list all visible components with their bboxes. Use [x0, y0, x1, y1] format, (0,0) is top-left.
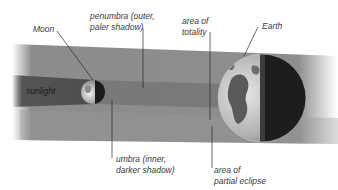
umbra-label-2: darker shadow): [116, 165, 175, 175]
earth-leader: [244, 27, 258, 56]
partial-label-2: partial eclipse: [214, 176, 266, 186]
penumbra-label-2: paler shadow): [90, 22, 143, 32]
moon-label: Moon: [33, 24, 54, 34]
penumbra-label-1: penumbra (outer,: [90, 11, 155, 21]
totality-label-1: area of: [182, 16, 208, 26]
totality-label-2: totality: [182, 27, 207, 37]
earth-label: Earth: [262, 21, 282, 31]
sunlight-label: sunlight: [26, 86, 55, 96]
partial-label-1: area of: [214, 165, 240, 175]
umbra-label-1: umbra (inner,: [116, 154, 166, 164]
umbra-cone: [95, 80, 225, 108]
